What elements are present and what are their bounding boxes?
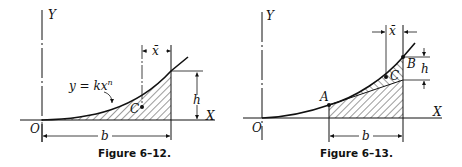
point-a-label: A (319, 90, 329, 104)
origin-label: O (30, 122, 40, 136)
centroid-point (384, 75, 388, 79)
xbar-label: x̄ (152, 44, 159, 58)
x-axis-label: X (432, 105, 442, 119)
x-axis-label: X (205, 109, 215, 123)
figures-canvas: Y X O y = kxn C x̄ h b Figure 6–12. (0, 0, 462, 167)
base-label: b (362, 129, 370, 143)
y-axis-label: Y (266, 9, 275, 23)
origin-label: O (252, 121, 262, 135)
height-label: h (193, 93, 201, 107)
figure-caption: Figure 6–12. (98, 147, 171, 159)
xbar-label: x̄ (389, 24, 396, 38)
base-label: b (101, 129, 109, 143)
curve-equation-label: y = kxn (68, 78, 113, 93)
point-b-label: B (406, 57, 416, 71)
figure-6-13: Y X O A B C x̄ h b Figure 6–13. (243, 9, 442, 159)
centroid-point (140, 105, 144, 109)
y-axis-label: Y (48, 8, 57, 22)
centroid-label: C (130, 102, 139, 116)
figure-caption: Figure 6–13. (320, 147, 393, 159)
figure-6-12: Y X O y = kxn C x̄ h b Figure 6–12. (20, 8, 215, 159)
centroid-label: C (390, 69, 399, 83)
height-label: h (421, 62, 429, 76)
hatched-trapezoid (329, 80, 403, 118)
curve-label-leader (104, 92, 112, 103)
